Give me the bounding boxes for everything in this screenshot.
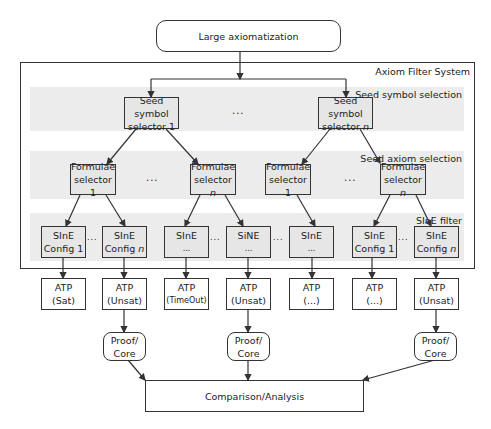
node-line1: SInE xyxy=(176,229,197,242)
node-line1: ATP xyxy=(428,281,445,294)
comparison-analysis-label: Comparison/Analysis xyxy=(205,390,304,403)
node-line1: SiNE xyxy=(238,229,260,242)
node-line1: Formulae xyxy=(381,160,425,173)
node-line1: ATP xyxy=(303,281,320,294)
node-line2: Config xyxy=(105,243,135,254)
node-line2: (TimeOut) xyxy=(166,294,206,307)
ellipsis: ... xyxy=(87,233,98,242)
node-line2: selector 1 xyxy=(266,173,310,199)
sine-config-1a: SInE Config 1 xyxy=(41,226,86,258)
node-suffix: n xyxy=(210,187,216,198)
node-line2: selector 1 xyxy=(128,120,175,133)
node-line2: (Sat) xyxy=(52,294,75,307)
atp-result-7: ATP (Unsat) xyxy=(414,278,459,310)
ellipsis: ... xyxy=(232,105,245,116)
node-line2: (Unsat) xyxy=(231,294,266,307)
node-line2: Core xyxy=(114,347,136,360)
ellipsis: ... xyxy=(273,233,284,242)
sine-config-3: SInE ... xyxy=(164,226,209,258)
node-suffix: n xyxy=(450,243,456,254)
node-line1: SInE xyxy=(426,229,447,242)
formulae-selector-1a: Formulae selector 1 xyxy=(70,164,116,195)
seed-symbol-selector-n: Seed symbol selector n xyxy=(318,97,373,129)
formulae-selector-na: Formulae selector n xyxy=(190,164,236,195)
node-line2: (Unsat) xyxy=(419,294,454,307)
node-line1: SInE xyxy=(114,229,135,242)
proof-core-2: Proof/ Core xyxy=(227,332,270,361)
sine-config-4: SiNE ... xyxy=(226,226,271,258)
sine-config-na: SInE Config n xyxy=(102,226,147,258)
sine-config-5: SInE ... xyxy=(289,226,334,258)
node-line2: Core xyxy=(425,347,447,360)
proof-core-1: Proof/ Core xyxy=(103,332,146,361)
ellipsis: ... xyxy=(210,233,221,242)
node-line1: Seed symbol xyxy=(319,94,372,120)
node-line2: selector xyxy=(194,174,232,185)
node-line2: Core xyxy=(238,347,260,360)
node-line2: selector xyxy=(384,174,422,185)
node-line1: Formulae xyxy=(71,160,115,173)
node-line1: ATP xyxy=(55,281,72,294)
comparison-analysis-node: Comparison/Analysis xyxy=(145,380,364,412)
large-axiomatization-label: Large axiomatization xyxy=(198,30,298,43)
atp-result-4: ATP (Unsat) xyxy=(226,278,271,310)
node-line1: SInE xyxy=(301,229,322,242)
node-line1: ATP xyxy=(116,281,133,294)
node-line2: (...) xyxy=(366,294,382,307)
large-axiomatization-node: Large axiomatization xyxy=(156,20,341,52)
node-line1: SInE xyxy=(364,229,385,242)
connector-arrows xyxy=(0,0,491,429)
node-line2: selector 1 xyxy=(71,173,115,199)
proof-core-3: Proof/ Core xyxy=(414,332,457,361)
node-line1: Proof/ xyxy=(422,334,449,347)
node-suffix: n xyxy=(138,243,144,254)
sine-config-1b: SInE Config 1 xyxy=(352,226,397,258)
ellipsis: ... xyxy=(344,172,357,183)
node-line1: ATP xyxy=(366,281,383,294)
node-line2: (Unsat) xyxy=(107,294,142,307)
atp-result-3: ATP (TimeOut) xyxy=(164,278,209,310)
node-suffix: n xyxy=(363,121,369,132)
seed-symbol-selector-1: Seed symbol selector 1 xyxy=(124,97,179,129)
sine-config-nb: SInE Config n xyxy=(414,226,459,258)
node-line2: Config 1 xyxy=(355,242,395,255)
atp-result-5: ATP (...) xyxy=(289,278,334,310)
node-line2: ... xyxy=(183,242,191,255)
formulae-selector-1b: Formulae selector 1 xyxy=(265,164,311,195)
node-line1: SInE xyxy=(53,229,74,242)
ellipsis: ... xyxy=(146,172,159,183)
atp-result-1: ATP (Sat) xyxy=(41,278,86,310)
node-line2: (...) xyxy=(303,294,319,307)
node-line1: ATP xyxy=(178,281,195,294)
node-line2: Config 1 xyxy=(44,242,84,255)
atp-result-2: ATP (Unsat) xyxy=(102,278,147,310)
node-line1: ATP xyxy=(240,281,257,294)
atp-result-6: ATP (...) xyxy=(352,278,397,310)
node-line2: selector xyxy=(322,121,360,132)
node-line2: ... xyxy=(308,242,316,255)
node-line1: Seed symbol xyxy=(125,94,178,120)
node-line2: Config xyxy=(417,243,447,254)
ellipsis: ... xyxy=(398,233,409,242)
node-line2: ... xyxy=(245,242,253,255)
node-line1: Proof/ xyxy=(235,334,262,347)
formulae-selector-nb: Formulae selector n xyxy=(380,164,426,195)
node-line1: Formulae xyxy=(266,160,310,173)
node-suffix: n xyxy=(400,187,406,198)
node-line1: Proof/ xyxy=(111,334,138,347)
node-line1: Formulae xyxy=(191,160,235,173)
